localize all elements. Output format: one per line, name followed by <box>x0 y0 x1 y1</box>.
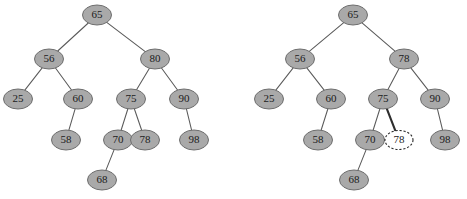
tree-node-R-65[interactable]: 65 <box>339 5 368 25</box>
node-label-R-70: 70 <box>365 133 377 145</box>
tree-node-L-78[interactable]: 78 <box>131 130 160 150</box>
node-label-R-68: 68 <box>349 173 361 185</box>
tree-edge-R-90-to-R-98 <box>437 109 442 130</box>
node-label-L-70: 70 <box>113 133 125 145</box>
tree-node-R-78b[interactable]: 78 <box>385 131 413 150</box>
node-label-R-78b: 78 <box>394 133 406 145</box>
tree-edge-R-56-to-R-60 <box>307 68 324 90</box>
tree-edge-R-65-to-R-56 <box>309 23 343 52</box>
right-tree-edges <box>276 23 443 171</box>
right-tree: 655678256075905870789868 <box>255 5 460 190</box>
node-label-R-90: 90 <box>430 92 442 104</box>
tree-node-L-90[interactable]: 90 <box>170 89 199 109</box>
tree-node-R-60[interactable]: 60 <box>317 89 346 109</box>
tree-node-R-25[interactable]: 25 <box>255 89 284 109</box>
tree-node-R-58[interactable]: 58 <box>304 130 333 150</box>
node-label-R-65: 65 <box>348 8 360 20</box>
tree-node-L-56[interactable]: 56 <box>35 49 64 69</box>
tree-node-L-60[interactable]: 60 <box>64 89 93 109</box>
tree-edge-L-60-to-L-58 <box>69 109 75 130</box>
tree-edge-R-75-to-R-70 <box>373 109 380 130</box>
tree-node-R-56[interactable]: 56 <box>286 49 315 69</box>
node-label-L-90: 90 <box>179 92 191 104</box>
tree-node-L-65[interactable]: 65 <box>83 5 112 25</box>
node-label-L-25: 25 <box>13 92 25 104</box>
tree-node-R-78[interactable]: 78 <box>390 49 419 69</box>
tree-edge-R-78-to-R-90 <box>411 68 428 90</box>
tree-node-L-98[interactable]: 98 <box>180 130 209 150</box>
tree-edge-L-75-to-L-70 <box>121 109 128 130</box>
tree-edge-R-60-to-R-58 <box>321 109 328 130</box>
tree-edge-R-78-to-R-75 <box>388 68 399 89</box>
tree-edge-R-56-to-R-25 <box>276 68 293 90</box>
node-label-L-80: 80 <box>150 52 162 64</box>
tree-node-R-98[interactable]: 98 <box>431 130 460 150</box>
tree-node-R-75[interactable]: 75 <box>369 89 398 109</box>
tree-node-R-70[interactable]: 70 <box>356 130 385 150</box>
tree-node-L-70[interactable]: 70 <box>104 130 133 150</box>
tree-edge-L-75-to-L-78 <box>134 109 141 131</box>
tree-node-L-58[interactable]: 58 <box>52 130 81 150</box>
node-label-L-78: 78 <box>140 133 152 145</box>
tree-edge-L-65-to-L-80 <box>107 22 146 51</box>
node-label-R-56: 56 <box>295 52 307 64</box>
tree-diagram-canvas: 6556802560759058707898686556782560759058… <box>0 0 467 199</box>
binary-tree-figure: 6556802560759058707898686556782560759058… <box>0 0 467 199</box>
tree-edge-L-56-to-L-25 <box>25 68 42 90</box>
tree-edge-L-90-to-L-98 <box>186 109 191 130</box>
node-label-R-58: 58 <box>313 133 325 145</box>
tree-edge-L-70-to-L-68 <box>106 150 114 171</box>
node-label-L-65: 65 <box>92 8 104 20</box>
node-label-L-68: 68 <box>97 173 109 185</box>
node-label-L-98: 98 <box>189 133 201 145</box>
node-label-R-60: 60 <box>326 92 338 104</box>
tree-node-R-68[interactable]: 68 <box>340 170 369 190</box>
node-label-R-75: 75 <box>378 92 390 104</box>
tree-node-L-80[interactable]: 80 <box>141 49 170 69</box>
tree-node-L-25[interactable]: 25 <box>4 89 33 109</box>
tree-node-L-75[interactable]: 75 <box>117 89 146 109</box>
left-tree: 655680256075905870789868 <box>4 5 209 190</box>
tree-edge-R-70-to-R-68 <box>358 150 366 171</box>
node-label-L-56: 56 <box>44 52 56 64</box>
node-label-L-75: 75 <box>126 92 138 104</box>
tree-edge-L-80-to-L-90 <box>161 68 177 90</box>
tree-edge-L-56-to-L-60 <box>55 68 71 90</box>
tree-edge-R-75-to-R-78b <box>387 109 396 131</box>
node-label-R-78: 78 <box>399 52 411 64</box>
tree-edge-R-65-to-R-78 <box>362 23 395 51</box>
tree-node-R-90[interactable]: 90 <box>421 89 450 109</box>
tree-edge-L-65-to-L-56 <box>58 23 89 51</box>
tree-edge-L-80-to-L-75 <box>137 68 150 90</box>
node-label-R-25: 25 <box>264 92 276 104</box>
left-tree-edges <box>25 22 192 170</box>
tree-node-L-68[interactable]: 68 <box>88 170 117 190</box>
node-label-R-98: 98 <box>440 133 452 145</box>
node-label-L-58: 58 <box>61 133 73 145</box>
node-label-L-60: 60 <box>73 92 85 104</box>
